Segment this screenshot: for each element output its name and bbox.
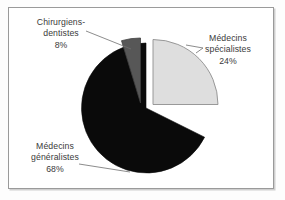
pie-label-medecins-specialistes: Médecins spécialistes 24% — [186, 33, 270, 67]
pie-label-line-2: généralistes — [11, 152, 99, 163]
pie-label-line-1: Médecins — [11, 141, 99, 152]
pie-label-value: 24% — [186, 56, 270, 67]
chart-figure: Chirurgiens- dentistes 8% Médecins spéci… — [0, 0, 285, 200]
pie-label-line-2: dentistes — [18, 28, 104, 39]
pie-label-line-2: spécialistes — [186, 44, 270, 55]
pie-label-line-1: Médecins — [186, 33, 270, 44]
pie-label-line-1: Chirurgiens- — [18, 17, 104, 28]
pie-label-value: 68% — [11, 164, 99, 175]
pie-label-medecins-generalistes: Médecins généralistes 68% — [11, 141, 99, 175]
pie-label-chirurgiens-dentistes: Chirurgiens- dentistes 8% — [18, 17, 104, 51]
pie-label-value: 8% — [18, 40, 104, 51]
